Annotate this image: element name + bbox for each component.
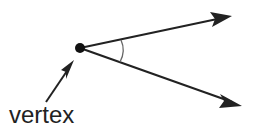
- arrowhead-icon: [219, 94, 242, 108]
- pointer-arrow: [46, 60, 74, 102]
- vertex-dot: [75, 43, 85, 53]
- angle-arc: [120, 40, 123, 62]
- vertex-label: vertex: [9, 101, 74, 129]
- lower-ray: [80, 48, 242, 108]
- upper-ray: [80, 12, 232, 48]
